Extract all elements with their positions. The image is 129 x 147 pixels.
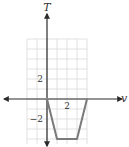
chart: v T 22−2: [0, 0, 129, 147]
y-tick-label: −2: [30, 114, 43, 124]
labels: v T 22−2: [30, 1, 128, 124]
axes: [4, 14, 122, 146]
x-axis-label: v: [121, 92, 128, 105]
grid: [27, 39, 87, 144]
y-axis-label: T: [43, 1, 52, 14]
x-tick-label: 2: [64, 101, 70, 111]
y-tick-label: 2: [37, 74, 43, 84]
